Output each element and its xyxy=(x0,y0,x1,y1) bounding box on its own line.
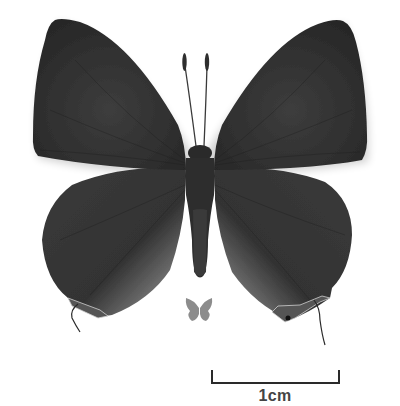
butterfly-illustration xyxy=(0,0,400,406)
scale-bar xyxy=(211,370,340,384)
butterfly-size-icon xyxy=(186,298,212,321)
left-forewing xyxy=(33,19,186,170)
left-hindwing xyxy=(42,168,185,316)
right-forewing xyxy=(214,20,367,170)
scale-bar-label: 1cm xyxy=(240,387,310,405)
specimen-photo: 1cm xyxy=(0,0,400,406)
butterfly-body xyxy=(185,145,215,278)
right-hindwing xyxy=(215,168,352,320)
antennae xyxy=(182,53,209,146)
